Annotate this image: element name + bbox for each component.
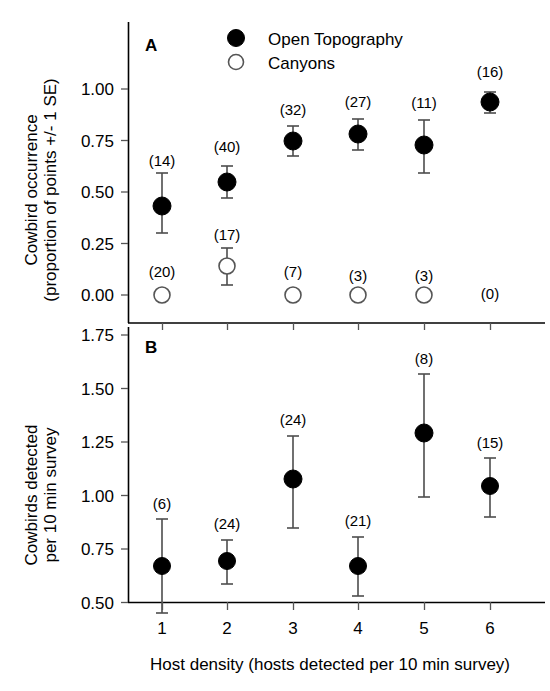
data-point-b-6: (15): [477, 434, 504, 517]
legend-marker-filled-circle-icon: [228, 30, 245, 47]
point-label: (32): [280, 101, 307, 118]
point-label: (14): [149, 152, 176, 169]
data-point-b-3: (24): [280, 411, 307, 528]
data-point-a-open-5: (11): [411, 94, 437, 173]
marker-open-circle: [350, 287, 366, 303]
panel-a-ytick-label-0-25: 0.25: [81, 235, 114, 254]
data-point-a-open-4: (27): [345, 93, 372, 150]
data-point-a-canyon-3: (7): [284, 263, 302, 303]
panel-b-ytick-label-0-50: 0.50: [81, 594, 114, 613]
data-point-b-5: (8): [415, 350, 433, 497]
panel-b-letter: B: [145, 338, 157, 357]
point-label: (24): [214, 515, 241, 532]
panel-b: 1.75 1.50 1.25 1.00 0.75 0.50 B Cowbirds…: [22, 326, 545, 674]
marker-filled-circle: [284, 132, 302, 150]
marker-filled-circle: [415, 424, 433, 442]
marker-filled-circle: [481, 93, 499, 111]
data-point-a-open-6: (16): [477, 63, 504, 113]
panel-a-ytick-label-0-75: 0.75: [81, 132, 114, 151]
point-label: (15): [477, 434, 504, 451]
data-point-b-1: (6): [153, 495, 171, 613]
panel-b-ylabel-line2: per 10 min survey: [41, 427, 60, 563]
data-point-a-canyon-6: (0): [481, 285, 499, 302]
legend-label-open-topography: Open Topography: [268, 30, 403, 49]
point-label: (24): [280, 411, 307, 428]
marker-filled-circle: [218, 173, 236, 191]
point-label: (16): [477, 63, 504, 80]
panel-a-ylabel-line2: (proportion of points +/- 1 SE): [41, 78, 60, 301]
point-label: (21): [345, 512, 372, 529]
chart-svg: 1.00 0.75 0.50 0.25 0.00 A Cowbird occur…: [0, 0, 550, 691]
marker-filled-circle: [415, 136, 433, 154]
marker-filled-circle: [349, 125, 367, 143]
panel-b-ylabel-line1: Cowbirds detected: [22, 425, 41, 566]
panel-b-ytick-label-1-50: 1.50: [81, 380, 114, 399]
panel-b-ytick-label-0-75: 0.75: [81, 540, 114, 559]
point-label: (17): [214, 226, 241, 243]
data-point-a-open-1: (14): [149, 152, 176, 233]
point-label: (20): [149, 263, 176, 280]
marker-filled-circle: [219, 553, 236, 570]
point-label: (7): [284, 263, 302, 280]
data-point-b-2: (24): [214, 515, 241, 584]
xtick-label-2: 2: [222, 619, 231, 638]
marker-open-circle: [219, 258, 235, 274]
marker-open-circle: [285, 287, 301, 303]
legend: Open Topography Canyons: [228, 30, 404, 74]
point-label: (0): [481, 285, 499, 302]
xtick-label-6: 6: [485, 619, 494, 638]
panel-a-ytick-label-1-00: 1.00: [81, 80, 114, 99]
marker-open-circle: [154, 287, 170, 303]
data-point-a-canyon-2: (17): [214, 226, 241, 285]
panel-a-ytick-label-0-00: 0.00: [81, 286, 114, 305]
data-point-a-canyon-1: (20): [149, 263, 176, 303]
data-point-a-open-3: (32): [280, 101, 307, 156]
legend-label-canyons: Canyons: [268, 54, 335, 73]
panel-b-ytick-label-1-00: 1.00: [81, 487, 114, 506]
panel-a-letter: A: [145, 36, 157, 55]
marker-filled-circle: [154, 558, 171, 575]
point-label: (6): [153, 495, 171, 512]
xtick-label-5: 5: [419, 619, 428, 638]
point-label: (27): [345, 93, 372, 110]
panel-a-y-ticks: [121, 89, 128, 295]
point-label: (40): [214, 138, 241, 155]
data-point-a-canyon-5: (3): [415, 267, 433, 303]
point-label: (3): [415, 267, 433, 284]
panel-a: 1.00 0.75 0.50 0.25 0.00 A Cowbird occur…: [22, 22, 503, 323]
marker-filled-circle: [284, 470, 302, 488]
xtick-label-4: 4: [353, 619, 362, 638]
panel-a-ylabel-line1: Cowbird occurrence: [22, 114, 41, 265]
marker-open-circle: [416, 287, 432, 303]
point-label: (11): [411, 94, 437, 111]
marker-filled-circle: [153, 197, 171, 215]
marker-filled-circle: [482, 478, 499, 495]
shared-middle-axis: [128, 323, 545, 330]
panel-b-y-ticks: [121, 335, 128, 603]
panel-b-ytick-label-1-25: 1.25: [81, 433, 114, 452]
xtick-label-3: 3: [288, 619, 297, 638]
legend-marker-open-circle-icon: [229, 55, 244, 70]
point-label: (8): [415, 350, 433, 367]
x-axis-title: Host density (hosts detected per 10 min …: [150, 655, 510, 674]
data-point-a-canyon-4: (3): [349, 267, 367, 303]
point-label: (3): [349, 267, 367, 284]
panel-a-ytick-label-0-50: 0.50: [81, 183, 114, 202]
panel-b-ytick-label-1-75: 1.75: [81, 326, 114, 345]
marker-filled-circle: [350, 558, 367, 575]
xtick-label-1: 1: [157, 619, 166, 638]
data-point-a-open-2: (40): [214, 138, 241, 198]
figure-container: 1.00 0.75 0.50 0.25 0.00 A Cowbird occur…: [0, 0, 550, 691]
data-point-b-4: (21): [345, 512, 372, 596]
